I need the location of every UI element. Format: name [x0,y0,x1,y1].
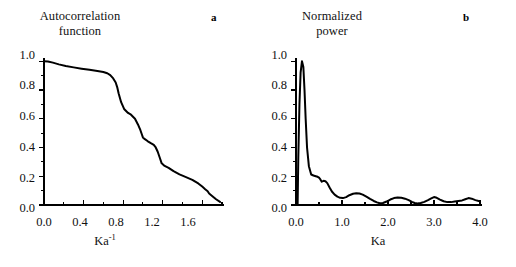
panel-a-ylabel-5: 0.2 [0,171,35,186]
panel-b-ylabel-5: 0.2 [252,171,287,186]
panel-a-ylabel-3: 0.6 [0,109,35,124]
panel-a-ylabel-2: 0.8 [0,78,35,93]
panel-b-xlabel-1: 0.0 [279,215,313,230]
panel-a-xlabel-3: 0.8 [99,215,133,230]
panel-b-xaxis-name-base: Ka [371,234,386,248]
figure-root: Autocorrelation function a 1.0 0.8 0.6 0… [0,0,516,267]
panel-a-xlabel-2: 0.4 [63,215,97,230]
panel-a-xlabel-5: 1.6 [171,215,205,230]
panel-a-xaxis-name-base: Ka [94,234,109,248]
panel-a-xaxis-name-sup: -1 [109,232,116,242]
panel-a: Autocorrelation function a 1.0 0.8 0.6 0… [0,0,258,267]
panel-b-xlabel-3: 2.0 [371,215,405,230]
panel-b-xlabel-5: 4.0 [463,215,497,230]
panel-b-xlabel-4: 3.0 [417,215,451,230]
panel-a-ylabel-1: 1.0 [0,48,35,63]
panel-b-xlabel-2: 1.0 [325,215,359,230]
panel-b-ylabel-4: 0.4 [252,140,287,155]
panel-b: Normalized power b 1.0 0.8 0.6 0.4 0.2 0… [258,0,516,267]
panel-a-xlabel-4: 1.2 [135,215,169,230]
panel-b-xaxis-name: Ka [348,234,408,249]
panel-a-ylabel-6: 0.0 [0,201,35,216]
panel-b-ylabel-2: 0.8 [252,78,287,93]
panel-b-ylabel-3: 0.6 [252,109,287,124]
panel-b-ylabel-1: 1.0 [252,48,287,63]
panel-a-ylabel-4: 0.4 [0,140,35,155]
panel-b-ylabel-6: 0.0 [252,201,287,216]
panel-a-xaxis-name: Ka-1 [75,234,135,249]
panel-a-xlabel-1: 0.0 [27,215,61,230]
